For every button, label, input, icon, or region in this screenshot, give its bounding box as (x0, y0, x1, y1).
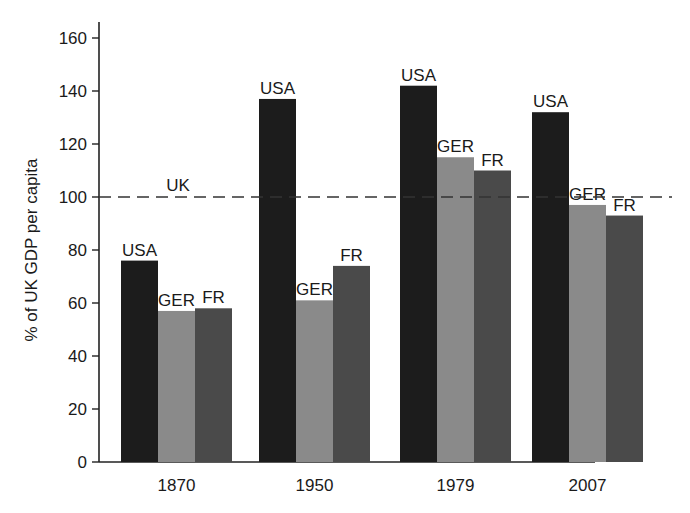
y-tick-label: 120 (59, 135, 87, 154)
uk-reference-label: UK (166, 176, 190, 195)
x-tick-label: 1870 (158, 476, 196, 495)
bar-usa-1950 (259, 99, 296, 462)
bar-label: GER (569, 185, 606, 204)
bar-label: FR (613, 196, 636, 215)
bar-ger-1950 (296, 300, 333, 462)
bar-chart: 020406080100120140160USAGERFR1870USAGERF… (0, 0, 690, 513)
y-tick-label: 80 (68, 241, 87, 260)
bar-fr-1979 (474, 171, 511, 463)
bar-usa-2007 (532, 112, 569, 462)
bar-label: FR (340, 246, 363, 265)
bar-usa-1979 (400, 86, 437, 462)
y-tick-label: 20 (68, 400, 87, 419)
bar-fr-1950 (333, 266, 370, 462)
bar-ger-1979 (437, 157, 474, 462)
bar-label: USA (122, 241, 158, 260)
x-tick-label: 1950 (296, 476, 334, 495)
bar-ger-2007 (569, 205, 606, 462)
bar-label: GER (158, 291, 195, 310)
y-tick-label: 40 (68, 347, 87, 366)
bar-label: USA (533, 92, 569, 111)
bar-label: FR (202, 288, 225, 307)
bar-ger-1870 (158, 311, 195, 462)
y-tick-label: 140 (59, 82, 87, 101)
y-tick-label: 60 (68, 294, 87, 313)
bar-fr-2007 (606, 216, 643, 462)
y-tick-label: 100 (59, 188, 87, 207)
bar-fr-1870 (195, 308, 232, 462)
x-tick-label: 2007 (569, 476, 607, 495)
x-tick-label: 1979 (437, 476, 475, 495)
bar-label: GER (437, 137, 474, 156)
bar-label: USA (401, 66, 437, 85)
bar-usa-1870 (121, 261, 158, 462)
bar-label: USA (260, 79, 296, 98)
y-tick-label: 160 (59, 29, 87, 48)
bar-label: GER (296, 280, 333, 299)
bar-label: FR (481, 151, 504, 170)
y-tick-label: 0 (78, 453, 87, 472)
